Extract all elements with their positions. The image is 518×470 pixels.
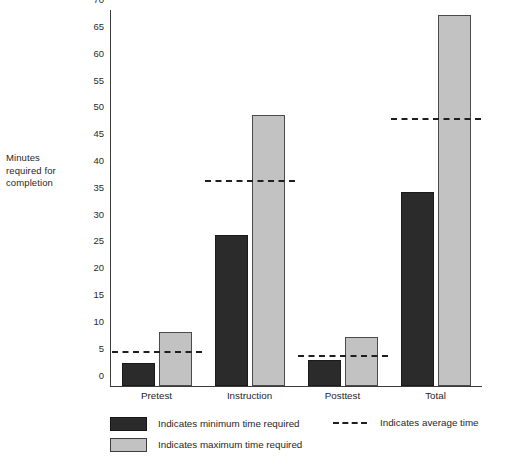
average-line-total [391,118,481,120]
y-axis-line [110,10,111,387]
legend-label-maximum: Indicates maximum time required [158,439,302,451]
legend-swatch-average-dashed-icon [333,422,367,424]
average-line-instruction [205,180,295,182]
bar-chart: Minutes required for completion 05101520… [0,0,518,470]
y-tick-label-65: 65 [93,22,104,32]
y-tick-label-25: 25 [93,236,104,246]
y-tick-label-30: 30 [93,210,104,220]
bar-max-instruction [252,115,285,386]
y-tick-label-35: 35 [93,183,104,193]
average-line-pretest [112,351,202,353]
x-label-pretest: Pretest [141,390,172,402]
x-axis-line [110,386,482,387]
x-label-posttest: Posttest [325,390,360,402]
bar-min-posttest [308,360,341,386]
y-axis-title: Minutes required for completion [6,152,84,190]
y-tick-label-10: 10 [93,317,104,327]
bar-max-total [438,15,471,385]
bar-min-pretest [122,363,155,386]
y-tick-label-50: 50 [93,102,104,112]
y-tick-label-55: 55 [93,76,104,86]
legend-label-minimum: Indicates minimum time required [158,418,300,430]
chart-legend: Indicates minimum time required Indicate… [0,415,518,465]
average-line-posttest [298,355,388,357]
legend-item-average: Indicates average time [333,417,479,429]
y-axis-title-line-2: required for [6,165,84,178]
bar-min-total [401,192,434,385]
legend-label-average: Indicates average time [380,417,479,429]
y-tick-label-15: 15 [93,290,104,300]
bar-max-posttest [345,337,378,385]
y-tick-label-60: 60 [93,49,104,59]
y-tick-label-20: 20 [93,263,104,273]
y-axis-title-line-1: Minutes [6,152,84,165]
x-label-total: Total [425,390,446,402]
y-tick-label-40: 40 [93,156,104,166]
bar-max-pretest [159,332,192,386]
plot-area: 0510152025303540455055606570 [110,10,482,387]
legend-swatch-minimum-icon [110,417,147,431]
y-axis-title-line-3: completion [6,177,84,190]
y-tick-label-0: 0 [99,371,104,381]
y-tick-label-70: 70 [93,0,104,5]
legend-swatch-maximum-icon [110,438,147,452]
x-label-instruction: Instruction [227,390,272,402]
bar-min-instruction [215,235,248,385]
y-tick-label-45: 45 [93,129,104,139]
legend-item-maximum: Indicates maximum time required [110,438,302,452]
legend-item-minimum: Indicates minimum time required [110,417,300,431]
y-tick-label-5: 5 [99,344,104,354]
